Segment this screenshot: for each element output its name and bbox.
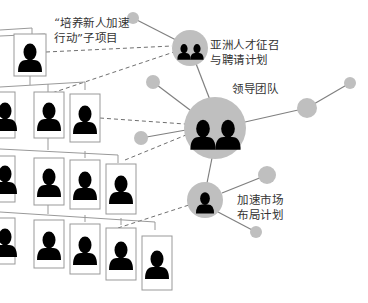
project-label-line1: “培养新人加速 <box>54 16 129 31</box>
org-card <box>34 92 64 138</box>
asia-label: 亚洲人才征召 与聘请计划 <box>210 38 279 68</box>
org-card <box>0 218 17 264</box>
leader-label: 领导团队 <box>232 82 278 97</box>
org-card <box>70 160 100 209</box>
market-expansion-node <box>187 182 223 218</box>
market-label-line2: 布局计划 <box>237 208 283 223</box>
org-card <box>14 34 46 76</box>
org-card <box>70 94 100 142</box>
org-card <box>34 220 64 268</box>
org-chart-cards <box>0 34 172 290</box>
org-card <box>34 158 64 205</box>
org-card <box>0 92 17 138</box>
org-card <box>0 156 17 202</box>
asia-label-line1: 亚洲人才征召 <box>210 38 279 53</box>
project-label: “培养新人加速 行动”子项目 <box>54 16 129 46</box>
org-card <box>106 164 136 214</box>
leader-label-line1: 领导团队 <box>232 82 278 97</box>
market-label: 加速市场 布局计划 <box>237 193 283 223</box>
leadership-team-node <box>184 97 246 159</box>
asia-recruitment-node <box>172 30 208 66</box>
market-label-line1: 加速市场 <box>237 193 283 208</box>
project-label-line2: 行动”子项目 <box>54 31 129 46</box>
org-card <box>70 224 100 274</box>
org-card <box>106 228 136 280</box>
talent-network-diagram: “培养新人加速 行动”子项目 亚洲人才征召 与聘请计划 领导团队 加速市场 布局… <box>0 0 368 303</box>
asia-label-line2: 与聘请计划 <box>210 53 279 68</box>
org-card <box>142 236 172 290</box>
